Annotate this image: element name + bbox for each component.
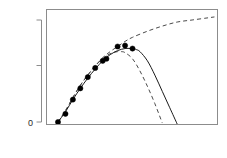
data-point — [78, 86, 83, 91]
chart-figure: 0 0 1 2 Concentration Response — [0, 0, 227, 158]
data-point — [104, 56, 109, 61]
plot-panel-border-overlay — [47, 10, 218, 125]
data-point — [70, 97, 75, 102]
fitted-solid-curve — [58, 48, 177, 124]
left-mask — [0, 0, 46, 158]
scatter-plot-svg: 0 0 1 2 Concentration Response — [0, 0, 227, 158]
data-point — [63, 111, 68, 116]
data-points-layer — [55, 43, 135, 125]
data-point — [130, 46, 135, 51]
data-point — [122, 43, 127, 48]
data-point — [85, 75, 90, 80]
curve-layer — [58, 17, 214, 124]
data-point — [55, 119, 60, 124]
saturating-dashed-curve — [58, 17, 214, 122]
fitted-dashed-curve — [58, 51, 162, 123]
data-point — [93, 65, 98, 70]
y-tick-label-zero-overlay: 0 — [28, 118, 33, 128]
right-mask — [218, 0, 227, 158]
data-point — [115, 44, 120, 49]
plot-panel-border — [47, 10, 218, 125]
